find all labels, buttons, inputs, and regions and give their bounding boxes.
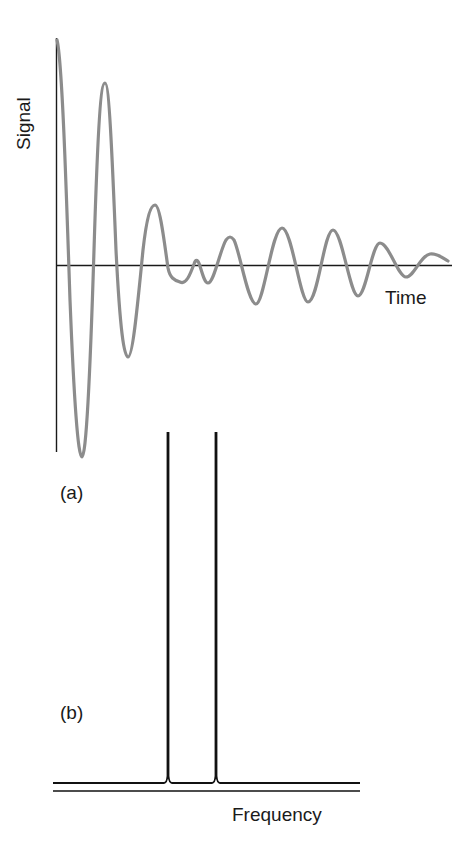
signal-axis-label: Signal bbox=[13, 97, 35, 150]
figure: Signal Time (a) (b) Frequency bbox=[0, 0, 475, 848]
time-axis-label: Time bbox=[385, 287, 427, 309]
spectrum-line bbox=[53, 433, 360, 783]
signal-curve bbox=[57, 40, 448, 457]
frequency-axis-label: Frequency bbox=[232, 804, 322, 826]
panel-a-label: (a) bbox=[60, 482, 83, 504]
panel-b-label: (b) bbox=[60, 702, 83, 724]
